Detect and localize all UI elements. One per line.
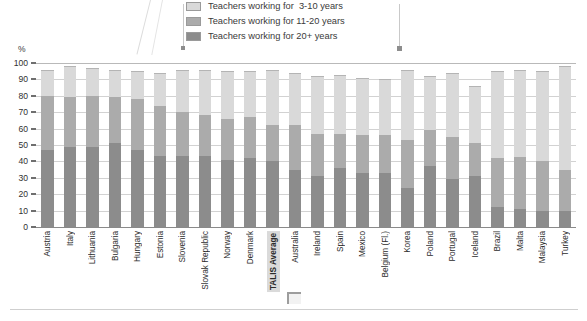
bar-segment-3-10 [109,70,122,98]
legend: Teachers working for 3-10 years Teachers… [186,0,416,44]
y-axis-tick-label-0: 0 [4,223,28,231]
bar-segment-11-20 [199,115,212,156]
y-axis-tick-label-40: 40 [4,157,28,165]
x-axis-label-spain: Spain [335,231,346,252]
bar-norway[interactable] [221,71,234,227]
x-axis-label-slovak-republic: Slovak Republic [200,231,211,290]
bar-segment-11-20 [221,119,234,160]
y-axis-tick-label-30: 30 [4,174,28,182]
bar-austria[interactable] [41,70,54,227]
bar-segment-3-10 [356,78,369,135]
bar-segment-3-10 [379,79,392,135]
y-axis-tick-label-10: 10 [4,207,28,215]
bar-segment-11-20 [154,106,167,157]
bar-denmark[interactable] [244,71,257,227]
bar-segment-3-10 [266,70,279,126]
bar-segment-20plus [244,158,257,227]
x-axis-label-poland: Poland [425,231,436,257]
bar-segment-3-10 [176,70,189,113]
bar-segment-11-20 [109,97,122,143]
bar-ireland[interactable] [311,76,324,227]
bar-bulgaria[interactable] [109,70,122,227]
x-axis-label-mexico: Mexico [357,231,368,257]
bar-spain[interactable] [334,75,347,228]
legend-swatch-11-20 [186,17,201,26]
x-axis-label-ireland: Ireland [312,231,323,256]
y-axis-tick-mark-10 [31,210,36,212]
x-axis-label-turkey: Turkey [560,231,571,256]
bar-segment-20plus [469,176,482,227]
bar-italy[interactable] [64,66,77,227]
footer-divider [10,309,578,310]
bar-segment-20plus [356,173,369,227]
bar-segment-3-10 [469,86,482,143]
x-axis-label-brazil: Brazil [492,231,503,251]
bar-segment-11-20 [131,99,144,150]
bar-segment-11-20 [41,96,54,150]
bar-slovenia[interactable] [176,70,189,227]
x-axis-label-korea: Korea [402,231,413,253]
y-axis-tick-label-50: 50 [4,141,28,149]
page-corner-mark [287,292,301,304]
bar-segment-11-20 [446,137,459,180]
bar-portugal[interactable] [446,73,459,227]
bar-segment-3-10 [491,71,504,158]
bar-segment-11-20 [334,134,347,168]
legend-item-3-10: Teachers working for 3-10 years [186,0,416,13]
bar-hungary[interactable] [131,71,144,227]
bar-australia[interactable] [289,73,302,227]
bar-segment-20plus [311,176,324,227]
bar-korea[interactable] [401,70,414,227]
bar-segment-11-20 [379,135,392,173]
legend-swatch-3-10 [186,2,201,11]
legend-leader-line-diagonal-secondary [151,0,163,55]
x-axis-label-malaysia: Malaysia [537,231,548,263]
legend-item-11-20: Teachers working for 11-20 years [186,15,416,28]
bar-iceland[interactable] [469,86,482,227]
legend-leader-line-left [183,4,184,48]
bar-segment-3-10 [154,73,167,106]
bar-segment-11-20 [491,158,504,207]
y-axis-tick-mark-100 [31,62,36,64]
bar-poland[interactable] [424,76,437,227]
legend-leader-marker-left [181,46,185,50]
bar-segment-20plus [109,143,122,227]
x-axis-label-lithuania: Lithuania [87,231,98,264]
bar-malaysia[interactable] [536,71,549,227]
bar-slovak-republic[interactable] [199,70,212,227]
legend-label-20plus: Teachers working for 20+ years [208,31,337,42]
bar-belgium-fl-[interactable] [379,79,392,227]
bar-brazil[interactable] [491,71,504,227]
bar-segment-20plus [446,179,459,227]
x-axis-label-estonia: Estonia [155,231,166,258]
bar-lithuania[interactable] [86,68,99,227]
x-axis-label-talis-average: TALIS Average [267,231,280,292]
x-axis-label-malta: Malta [515,231,526,251]
x-axis-label-belgium-fl-: Belgium (Fl.) [380,231,391,277]
bar-segment-3-10 [311,76,324,133]
bar-mexico[interactable] [356,78,369,227]
bar-segment-11-20 [266,125,279,161]
legend-item-20plus: Teachers working for 20+ years [186,30,416,43]
bar-segment-20plus [221,160,234,227]
bar-segment-11-20 [64,97,77,146]
bar-segment-3-10 [446,73,459,137]
y-axis-tick-mark-30 [31,177,36,179]
bar-segment-20plus [334,168,347,227]
bar-segment-3-10 [514,70,527,157]
bar-segment-11-20 [289,125,302,169]
bar-estonia[interactable] [154,73,167,227]
bar-malta[interactable] [514,70,527,227]
x-axis-label-australia: Australia [290,231,301,263]
bar-talis-average[interactable] [266,70,279,227]
legend-label-11-20: Teachers working for 11-20 years [208,16,345,27]
bar-segment-20plus [514,209,527,227]
bar-segment-3-10 [424,76,437,130]
x-axis-label-bulgaria: Bulgaria [110,231,121,261]
x-axis-label-norway: Norway [222,231,233,259]
bar-segment-20plus [379,173,392,227]
y-axis-tick-label-60: 60 [4,125,28,133]
bar-turkey[interactable] [559,66,572,227]
bar-segment-3-10 [244,71,257,117]
y-axis-tick-mark-0 [31,226,36,228]
